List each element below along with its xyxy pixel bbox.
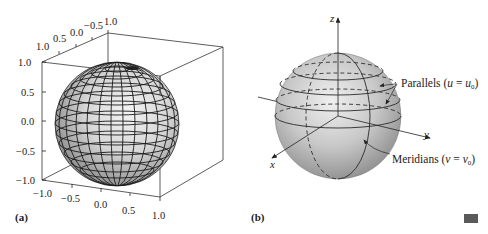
parallels-annotation: Parallels (u = u0) <box>401 77 479 91</box>
left-tick-4: −1.0 <box>16 175 35 186</box>
z-axis-label: z <box>329 12 335 24</box>
end-marker <box>464 214 478 223</box>
top-tick-2: 0.0 <box>70 27 83 38</box>
panel-b: z y x Parallels (u = u0) Meridians (v = … <box>251 12 479 224</box>
bottom-tick-2: 0.0 <box>94 199 107 210</box>
meridians-annotation: Meridians (v = v0) <box>392 153 475 167</box>
left-tick-2: 0.0 <box>21 116 34 127</box>
panel-b-label: (b) <box>251 211 265 224</box>
bottom-tick-4: 1.0 <box>152 210 165 221</box>
pole-cap <box>125 66 139 70</box>
x-axis-label: x <box>269 158 275 170</box>
figure-canvas: 1.0 0.5 0.0 −0.5 1.0 1.0 0.5 0.0 −0.5 −1… <box>0 0 488 234</box>
left-tick-1: 0.5 <box>21 87 34 98</box>
top-tick-0: 1.0 <box>36 41 49 52</box>
left-tick-0: 1.0 <box>18 57 31 68</box>
top-tick-4: 1.0 <box>104 16 117 27</box>
top-tick-1: 0.5 <box>53 33 66 44</box>
left-tick-3: −0.5 <box>16 146 35 157</box>
top-tick-3: −0.5 <box>84 20 103 31</box>
bottom-tick-3: 0.5 <box>122 205 135 216</box>
panel-a: 1.0 0.5 0.0 −0.5 1.0 1.0 0.5 0.0 −0.5 −1… <box>15 16 223 224</box>
panel-a-label: (a) <box>15 211 28 224</box>
y-axis-label: y <box>423 128 429 140</box>
bottom-tick-1: −0.5 <box>61 193 80 204</box>
bottom-tick-0: −1.0 <box>33 188 52 199</box>
